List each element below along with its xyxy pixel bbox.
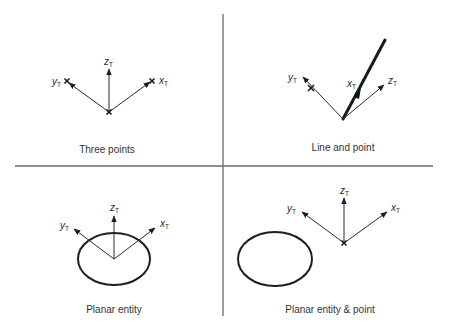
planar-entity-ellipse	[238, 232, 312, 286]
panel-planar-entity: zT yT xT Planar entity	[59, 202, 169, 315]
x-label: xT	[346, 78, 356, 90]
diagram-canvas: zT yT xT Three points yT xT zT Line and …	[0, 0, 456, 333]
caption-line-and-point: Line and point	[312, 142, 375, 153]
caption-planar-entity: Planar entity	[86, 304, 142, 315]
y-label: yT	[287, 72, 297, 84]
x-label: xT	[158, 75, 168, 87]
x-axis-arrow	[109, 82, 150, 112]
y-axis-arrow	[302, 212, 344, 243]
panel-line-and-point: yT xT zT Line and point	[287, 40, 397, 153]
y-label: yT	[286, 203, 296, 215]
caption-planar-entity-point: Planar entity & point	[285, 304, 375, 315]
y-axis-arrow	[69, 83, 109, 112]
y-label: yT	[59, 220, 69, 232]
x-axis-arrow	[344, 212, 387, 243]
panel-three-points: zT yT xT Three points	[51, 56, 168, 155]
y-point-cross-icon	[65, 79, 70, 84]
x-label: xT	[390, 202, 400, 214]
caption-three-points: Three points	[79, 144, 135, 155]
z-label: zT	[387, 75, 397, 87]
y-axis-arrow	[303, 77, 343, 119]
z-label: zT	[109, 202, 119, 214]
y-label: yT	[51, 76, 61, 88]
panel-planar-entity-point: zT yT xT Planar entity & point	[238, 185, 400, 315]
z-label: zT	[339, 185, 349, 197]
x-label: xT	[159, 218, 169, 230]
z-label: zT	[103, 56, 113, 68]
z-axis-arrow	[343, 85, 384, 119]
x-point-cross-icon	[150, 79, 155, 84]
